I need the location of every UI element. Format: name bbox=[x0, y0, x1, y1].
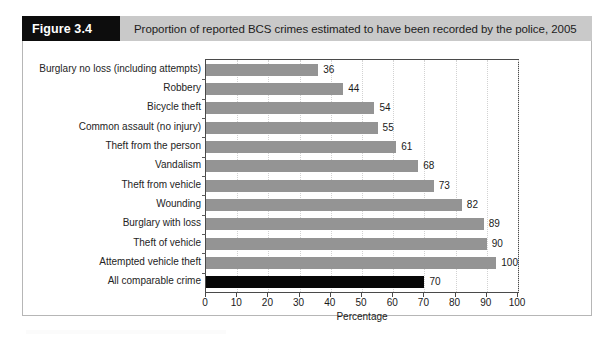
category-tick bbox=[202, 195, 206, 196]
bar bbox=[206, 218, 484, 230]
category-label: Burglary with loss bbox=[25, 218, 205, 228]
category-label: All comparable crime bbox=[25, 276, 205, 286]
x-axis-tick-label: 40 bbox=[324, 298, 335, 308]
category-tick bbox=[202, 99, 206, 100]
bar bbox=[206, 257, 496, 269]
x-axis-tick-label: 60 bbox=[387, 298, 398, 308]
x-axis-tick-label: 90 bbox=[480, 298, 491, 308]
bar-value-label: 100 bbox=[496, 258, 518, 268]
category-tick bbox=[202, 137, 206, 138]
bar-value-label: 61 bbox=[396, 142, 412, 152]
bar-rows: 3644545561687382899010070 bbox=[206, 60, 518, 292]
category-label: Common assault (no injury) bbox=[25, 122, 205, 132]
figure-card: Figure 3.4 Proportion of reported BCS cr… bbox=[22, 16, 592, 316]
bar-row: 36 bbox=[206, 64, 518, 76]
figure-title: Proportion of reported BCS crimes estima… bbox=[120, 16, 592, 41]
bar-row: 54 bbox=[206, 102, 518, 114]
bar-value-label: 36 bbox=[318, 65, 334, 75]
category-label: Attempted vehicle theft bbox=[25, 257, 205, 267]
category-tick bbox=[202, 234, 206, 235]
bar-value-label: 54 bbox=[374, 103, 390, 113]
bar-value-label: 90 bbox=[487, 239, 503, 249]
x-axis-tick-label: 50 bbox=[355, 298, 366, 308]
category-tick bbox=[202, 176, 206, 177]
x-axis: 0102030405060708090100 Percentage bbox=[205, 293, 519, 327]
bar bbox=[206, 64, 318, 76]
bar bbox=[206, 141, 396, 153]
bar bbox=[206, 160, 418, 172]
x-axis-tick-label: 20 bbox=[262, 298, 273, 308]
bar-chart: Burglary no loss (including attempts)Rob… bbox=[23, 41, 591, 314]
x-axis-tick-label: 80 bbox=[449, 298, 460, 308]
bar-row: 100 bbox=[206, 257, 518, 269]
category-tick bbox=[202, 215, 206, 216]
bar-value-label: 44 bbox=[343, 84, 359, 94]
bar-row: 44 bbox=[206, 83, 518, 95]
category-label: Wounding bbox=[25, 199, 205, 209]
category-label: Theft of vehicle bbox=[25, 238, 205, 248]
category-tick bbox=[202, 273, 206, 274]
scan-artifact bbox=[26, 330, 226, 334]
bar-row: 90 bbox=[206, 238, 518, 250]
plot-area: 3644545561687382899010070 bbox=[205, 59, 519, 293]
category-tick bbox=[202, 157, 206, 158]
bar bbox=[206, 199, 462, 211]
bar-row: 55 bbox=[206, 122, 518, 134]
bar bbox=[206, 180, 434, 192]
category-tick bbox=[202, 118, 206, 119]
category-axis-labels: Burglary no loss (including attempts)Rob… bbox=[23, 59, 205, 293]
bar-row: 68 bbox=[206, 160, 518, 172]
bar-row: 73 bbox=[206, 180, 518, 192]
bar bbox=[206, 238, 487, 250]
bar-row: 70 bbox=[206, 276, 518, 288]
category-label: Bicycle theft bbox=[25, 102, 205, 112]
figure-body: Burglary no loss (including attempts)Rob… bbox=[22, 41, 592, 316]
category-tick bbox=[202, 79, 206, 80]
category-label: Burglary no loss (including attempts) bbox=[25, 64, 205, 74]
gridline bbox=[518, 60, 519, 292]
bar-value-label: 73 bbox=[434, 181, 450, 191]
bar-value-label: 68 bbox=[418, 161, 434, 171]
category-label: Robbery bbox=[25, 83, 205, 93]
bar-value-label: 70 bbox=[424, 277, 440, 287]
bar-value-label: 55 bbox=[378, 123, 394, 133]
bar-row: 89 bbox=[206, 218, 518, 230]
bar bbox=[206, 102, 374, 114]
x-axis-tick-label: 70 bbox=[418, 298, 429, 308]
category-label: Vandalism bbox=[25, 160, 205, 170]
category-label: Theft from vehicle bbox=[25, 180, 205, 190]
bar-value-label: 82 bbox=[462, 200, 478, 210]
bar-row: 82 bbox=[206, 199, 518, 211]
bar bbox=[206, 122, 378, 134]
category-tick bbox=[202, 253, 206, 254]
x-axis-tick-label: 0 bbox=[202, 298, 208, 308]
x-axis-tick-label: 100 bbox=[509, 298, 526, 308]
bar bbox=[206, 83, 343, 95]
figure-number-label: Figure 3.4 bbox=[22, 16, 120, 41]
x-axis-tick-label: 30 bbox=[293, 298, 304, 308]
category-label: Theft from the person bbox=[25, 141, 205, 151]
x-axis-title: Percentage bbox=[205, 312, 519, 322]
bar-value-label: 89 bbox=[484, 219, 500, 229]
bar-row: 61 bbox=[206, 141, 518, 153]
bar bbox=[206, 276, 424, 288]
figure-header: Figure 3.4 Proportion of reported BCS cr… bbox=[22, 16, 592, 41]
x-axis-tick-label: 10 bbox=[231, 298, 242, 308]
